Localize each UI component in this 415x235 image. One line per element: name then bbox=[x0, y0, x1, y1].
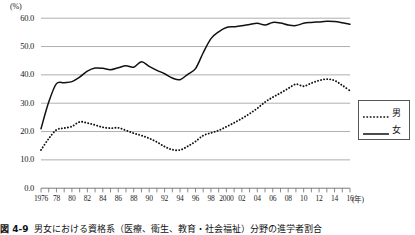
y-tick-label: 0.0 bbox=[8, 184, 34, 192]
legend-label-female: 女 bbox=[392, 125, 401, 135]
y-tick-label: 10.0 bbox=[8, 155, 34, 163]
legend-label-male: 男 bbox=[392, 108, 401, 118]
x-axis-unit-label: (年) bbox=[352, 196, 364, 204]
legend-swatch-solid bbox=[362, 125, 390, 135]
y-tick-label: 40.0 bbox=[8, 70, 34, 78]
y-tick-label: 30.0 bbox=[8, 99, 34, 107]
legend: 男 女 bbox=[358, 100, 410, 140]
legend-swatch-dotted bbox=[362, 108, 390, 118]
y-tick-label: 50.0 bbox=[8, 42, 34, 50]
y-tick-label: 20.0 bbox=[8, 127, 34, 135]
figure-number: 図 4-9 bbox=[0, 224, 28, 234]
legend-item-male: 男 bbox=[359, 105, 411, 121]
figure-caption-text: 男女における資格系（医療、衛生、教育・社会福祉）分野の進学者割合 bbox=[34, 224, 322, 234]
legend-item-female: 女 bbox=[359, 122, 411, 138]
chart-figure: (%) 60.050.040.030.020.010.00.0 19767880… bbox=[0, 0, 415, 235]
series-line-male bbox=[41, 79, 350, 150]
y-tick-label: 60.0 bbox=[8, 14, 34, 22]
data-series-layer bbox=[41, 21, 350, 150]
gridlines bbox=[41, 18, 350, 160]
figure-caption: 図 4-9男女における資格系（医療、衛生、教育・社会福祉）分野の進学者割合 bbox=[0, 224, 415, 235]
x-axis-ticks bbox=[41, 188, 350, 192]
